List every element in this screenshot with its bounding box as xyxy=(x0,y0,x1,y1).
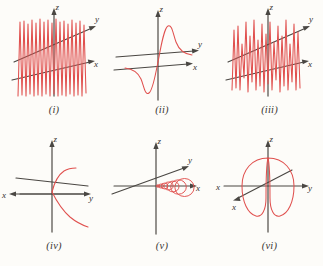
curve-vi-ring-left xyxy=(242,158,268,216)
y-label-iv: y xyxy=(88,193,93,203)
panel-v: z x y (v) xyxy=(108,128,216,266)
curve-iv-upper xyxy=(52,168,76,192)
y-label-ii: y xyxy=(197,39,202,49)
x-label-iii: x xyxy=(307,59,312,69)
figure-container: z y x (i) z y x (ii) xyxy=(0,0,323,266)
curve-i xyxy=(18,19,86,96)
curve-iv-lower xyxy=(52,192,88,227)
y-axis xyxy=(116,51,194,57)
y-label-iii: y xyxy=(308,14,313,24)
panel-caption-iv: (iv) xyxy=(0,240,108,251)
x2-label-vi: x xyxy=(231,202,236,212)
y-axis-arrowhead xyxy=(182,166,189,171)
panel-ii: z y x (ii) xyxy=(108,0,216,122)
curve-iii xyxy=(232,20,300,92)
axes-ii xyxy=(114,10,199,100)
panel-ii-plot: z y x xyxy=(108,0,216,104)
axes-v xyxy=(112,142,197,234)
panel-caption-iii: (iii) xyxy=(216,104,323,115)
y-axis-arrowhead xyxy=(303,26,310,31)
curve-ii xyxy=(158,26,192,62)
z-label-iv: z xyxy=(53,134,58,144)
curve-v-spiral xyxy=(156,179,194,197)
panel-v-plot: z x y xyxy=(108,128,216,240)
panel-i: z y x (i) xyxy=(0,0,108,122)
x-label-ii: x xyxy=(192,62,197,72)
y-label-v: y xyxy=(187,155,192,165)
x-axis-diagonal xyxy=(238,170,292,198)
z-label-ii: z xyxy=(159,4,164,14)
z-label-iii: z xyxy=(269,2,274,12)
x-axis-arrowhead xyxy=(9,192,16,197)
panel-iii: z y x (iii) xyxy=(216,0,323,122)
panel-iv: z y x (iv) xyxy=(0,128,108,266)
panel-iv-plot: z y x xyxy=(0,128,108,240)
y-label-i: y xyxy=(94,14,99,24)
panel-i-plot: z y x xyxy=(0,0,108,104)
y-label-vi: y xyxy=(307,183,312,193)
panel-caption-v: (v) xyxy=(108,240,216,251)
curve-vi-ring-right xyxy=(268,158,294,216)
axes-iv xyxy=(9,140,91,232)
panel-caption-ii: (ii) xyxy=(108,104,216,115)
x-label-i: x xyxy=(93,59,98,69)
x-axis xyxy=(114,64,188,70)
y-axis-arrowhead xyxy=(89,26,96,31)
x-label-vi: x xyxy=(215,182,220,192)
panel-caption-vi: (vi) xyxy=(216,240,323,251)
z-label-vi: z xyxy=(269,134,274,144)
z-label-v: z xyxy=(157,136,162,146)
x-axis-arrowhead xyxy=(186,62,193,67)
y-axis-arrowhead xyxy=(192,49,199,54)
x-label-v: x xyxy=(195,183,200,193)
z-label-i: z xyxy=(55,2,60,12)
panel-caption-i: (i) xyxy=(0,104,108,115)
panel-vi: z y x x (vi) xyxy=(216,128,323,266)
panel-iii-plot: z y x xyxy=(216,0,323,104)
x-label-iv: x xyxy=(1,190,6,200)
panel-vi-plot: z y x x xyxy=(216,128,323,240)
